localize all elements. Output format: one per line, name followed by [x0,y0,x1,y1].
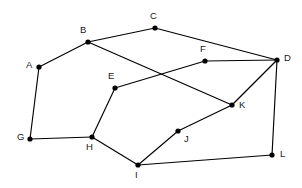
graph-diagram: ABCDEFGHIJKL [0,0,302,188]
graph-canvas [0,0,302,188]
vertex-label-l: L [280,149,285,159]
vertex-label-d: D [284,53,291,63]
graph-vertex-a [36,64,41,69]
graph-edge-e-h [92,88,115,137]
graph-vertex-f [202,58,207,63]
graph-vertex-l [269,152,274,157]
graph-vertex-i [135,162,140,167]
graph-vertex-b [85,39,90,44]
graph-edge-h-i [92,137,138,165]
graph-vertex-h [89,134,94,139]
graph-edge-i-l [138,155,272,165]
graph-vertex-g [27,136,32,141]
vertex-label-i: I [135,170,138,180]
graph-edge-g-h [30,137,92,139]
vertex-label-j: J [184,134,189,144]
graph-vertex-e [112,85,117,90]
graph-vertex-j [175,128,180,133]
vertex-label-k: K [239,100,245,110]
graph-edge-b-c [88,28,155,42]
graph-vertex-k [229,102,234,107]
graph-edge-d-l [272,60,277,155]
vertex-label-g: G [17,132,24,142]
vertex-label-a: A [26,60,32,70]
edges-group [30,28,277,165]
graph-edge-e-f [115,61,205,88]
graph-edge-i-j [138,131,178,165]
graph-edge-a-g [30,67,39,139]
vertex-label-f: F [200,44,206,54]
graph-edge-d-f [205,60,277,61]
vertex-label-c: C [150,11,157,21]
graph-edge-a-b [39,42,88,67]
graph-vertex-c [152,25,157,30]
vertex-label-h: H [86,142,93,152]
vertex-label-e: E [108,71,114,81]
vertices-group [27,25,279,167]
graph-edge-c-d [155,28,277,60]
graph-vertex-d [274,57,279,62]
graph-edge-j-k [178,105,232,131]
vertex-label-b: B [80,25,86,35]
